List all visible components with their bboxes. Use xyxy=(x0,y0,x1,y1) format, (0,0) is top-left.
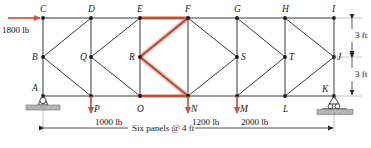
joint-label-I: I xyxy=(332,5,335,15)
joint-label-B: B xyxy=(32,53,38,63)
joint-label-L: L xyxy=(283,105,288,115)
member-MT xyxy=(237,57,285,96)
joint-label-R: R xyxy=(129,53,135,63)
joint-label-C: C xyxy=(40,5,46,15)
joint-dot-B xyxy=(41,55,45,59)
joint-label-S: S xyxy=(241,53,246,63)
member-FS xyxy=(188,18,237,57)
joint-dot-E xyxy=(138,16,142,20)
member-RN xyxy=(140,57,188,96)
joint-label-Q: Q xyxy=(80,53,87,63)
joint-label-P: P xyxy=(94,105,100,115)
lower-height-label: 3 ft xyxy=(355,70,367,79)
joint-label-K: K xyxy=(322,85,328,95)
joint-dot-C xyxy=(41,16,45,20)
member-RF xyxy=(140,18,188,57)
joint-dot-R xyxy=(138,55,142,59)
joint-dot-Q xyxy=(89,55,93,59)
load-label-1800: 1800 lb xyxy=(2,26,29,35)
joint-label-M: M xyxy=(240,105,248,115)
joint-label-O: O xyxy=(137,105,144,115)
joint-dot-L xyxy=(283,94,287,98)
joint-label-H: H xyxy=(282,5,289,15)
member-BP xyxy=(43,57,91,96)
joint-label-A: A xyxy=(32,84,38,94)
joint-label-T: T xyxy=(289,53,294,63)
support-K-roller xyxy=(317,96,353,115)
joint-dot-F xyxy=(186,16,190,20)
joint-label-N: N xyxy=(191,105,197,115)
joint-label-G: G xyxy=(234,5,241,15)
truss-diagram: ABCDEFGHIJKLMNOPQRST 1800 lb 1000 lb 120… xyxy=(0,0,371,148)
joint-dot-T xyxy=(283,55,287,59)
span-dimension-label: Six panels @ 4 ft xyxy=(132,124,194,133)
joint-dot-D xyxy=(89,16,93,20)
joint-label-D: D xyxy=(88,5,95,15)
joint-label-J: J xyxy=(337,53,341,63)
load-label-1000: 1000 lb xyxy=(95,118,122,127)
member-QO xyxy=(91,57,140,96)
joint-label-E: E xyxy=(137,5,143,15)
load-label-1200: 1200 lb xyxy=(192,118,219,127)
joint-label-F: F xyxy=(185,5,191,15)
joint-dot-S xyxy=(235,55,239,59)
upper-height-label: 3 ft xyxy=(355,31,367,40)
joint-dot-O xyxy=(138,94,142,98)
member-NS xyxy=(188,57,237,96)
joint-dot-G xyxy=(235,16,239,20)
load-label-2000: 2000 lb xyxy=(241,118,268,127)
joint-dot-H xyxy=(283,16,287,20)
